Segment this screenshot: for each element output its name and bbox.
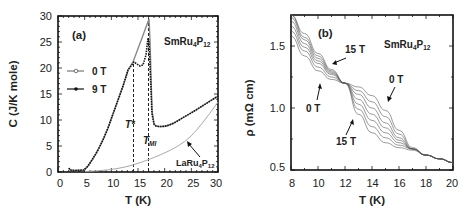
xtick-label: 16 bbox=[393, 177, 405, 189]
xtick-label: 14 bbox=[366, 177, 378, 189]
ytick-label: 0 bbox=[46, 166, 52, 178]
panel-a-legend: 0 T 9 T bbox=[67, 66, 106, 95]
legend-label-9T: 9 T bbox=[92, 84, 106, 95]
figure: 0 5 10 15 20 25 30 0 5 10 15 20 25 30 T … bbox=[0, 0, 471, 219]
arrow-label-0T-right: 0 T bbox=[389, 74, 403, 85]
xtick-label: 25 bbox=[187, 177, 199, 189]
xtick-label: 20 bbox=[161, 177, 173, 189]
xtick-label: 8 bbox=[289, 177, 295, 189]
panel-a-ytick-labels: 0 5 10 15 20 25 30 bbox=[40, 10, 52, 178]
xtick-label: 12 bbox=[339, 177, 351, 189]
ytick-label: 30 bbox=[40, 10, 52, 22]
xtick-label: 5 bbox=[84, 177, 90, 189]
panel-b: 0.5 1.0 1.5 8 10 12 14 16 18 20 T (K) ρ … bbox=[243, 15, 458, 206]
ytick-label: 5 bbox=[46, 140, 52, 152]
panel-b-ytick-labels: 0.5 1.0 1.5 bbox=[270, 40, 285, 173]
arrow-label-0T-lower-left: 0 T bbox=[306, 103, 320, 114]
xtick-label: 0 bbox=[57, 177, 63, 189]
ytick-label: 10 bbox=[40, 114, 52, 126]
x-axis-label: T (K) bbox=[125, 194, 151, 206]
arrow-label-15T-lower: 15 T bbox=[336, 136, 356, 147]
panel-b-frame bbox=[291, 15, 453, 170]
xtick-label: 18 bbox=[420, 177, 432, 189]
resistivity-curve bbox=[291, 36, 453, 162]
xtick-label: 20 bbox=[446, 177, 458, 189]
t-mi-label: TMI bbox=[143, 135, 157, 147]
arrow-label-15T-upper: 15 T bbox=[345, 44, 365, 55]
xtick-label: 10 bbox=[107, 177, 119, 189]
ytick-label: 20 bbox=[40, 62, 52, 74]
legend-marker-open-circle bbox=[74, 69, 78, 73]
panel-a-compound: SmRu4P12 bbox=[164, 36, 211, 48]
xtick-label: 30 bbox=[210, 177, 222, 189]
x-axis-label: T (K) bbox=[359, 194, 385, 206]
panel-b-ticks bbox=[291, 15, 453, 170]
arrowhead-icon bbox=[332, 60, 337, 65]
panel-b-compound: SmRu4P12 bbox=[384, 39, 431, 51]
arrow-line bbox=[346, 122, 352, 135]
ytick-label: 0.5 bbox=[270, 161, 285, 173]
panel-a-label: (a) bbox=[72, 29, 86, 41]
ytick-label: 1.0 bbox=[270, 102, 285, 114]
t-star-label: T* bbox=[125, 119, 136, 130]
resistivity-curve bbox=[291, 15, 453, 163]
panel-a: 0 5 10 15 20 25 30 0 5 10 15 20 25 30 T … bbox=[7, 10, 222, 206]
xtick-label: 10 bbox=[312, 177, 324, 189]
legend-label-0T: 0 T bbox=[92, 66, 106, 77]
panel-b-xtick-labels: 8 10 12 14 16 18 20 bbox=[289, 177, 458, 189]
resistivity-curves bbox=[291, 15, 453, 163]
ytick-label: 1.5 bbox=[270, 40, 285, 52]
resistivity-curve bbox=[291, 17, 453, 162]
resistivity-curve bbox=[291, 21, 453, 162]
series-9T bbox=[69, 38, 218, 171]
y-axis-label: C (J/K mole) bbox=[7, 60, 19, 127]
y-axis-label: ρ (mΩ cm) bbox=[243, 79, 255, 136]
resistivity-curve bbox=[291, 15, 453, 163]
panel-b-label: (b) bbox=[318, 27, 333, 39]
legend-marker-filled-circle bbox=[74, 87, 78, 91]
panel-a-xtick-labels: 0 5 10 15 20 25 30 bbox=[57, 177, 222, 189]
ytick-label: 25 bbox=[40, 36, 52, 48]
laru4p12-label: LaRu4P12 bbox=[176, 158, 215, 169]
arrowhead-icon bbox=[318, 83, 322, 89]
ytick-label: 15 bbox=[40, 88, 52, 100]
xtick-label: 15 bbox=[134, 177, 146, 189]
